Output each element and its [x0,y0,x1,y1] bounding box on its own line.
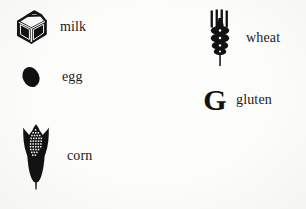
wheat-stalk-icon [206,9,234,67]
legend-item-milk: milk [16,10,86,44]
milk-carton-icon [16,10,48,44]
legend-item-gluten: G gluten [203,87,272,113]
legend-label-wheat: wheat [246,31,280,45]
gluten-g-glyph: G [203,87,227,113]
corn-cob-icon [19,121,53,191]
legend-item-egg: egg [18,64,83,90]
legend-label-egg: egg [62,70,83,84]
legend-label-corn: corn [67,149,92,163]
legend-item-corn: corn [19,121,92,191]
egg-icon [18,64,44,90]
legend-label-gluten: gluten [236,93,272,107]
legend-label-milk: milk [60,20,86,34]
letter-g-icon: G [203,87,227,113]
legend-item-wheat: wheat [206,9,280,67]
allergen-legend-sheet: milk egg [0,0,306,209]
